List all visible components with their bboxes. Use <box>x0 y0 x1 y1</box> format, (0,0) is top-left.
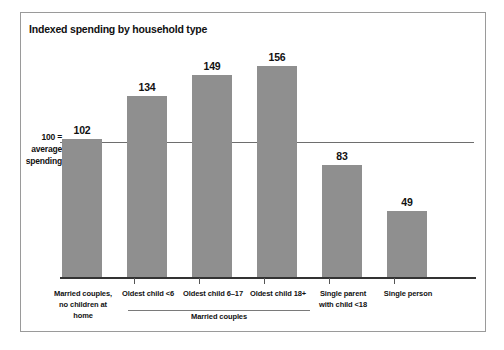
bar <box>192 75 232 278</box>
bar-value-label: 134 <box>127 81 167 93</box>
axis-note-line-1: 100 = <box>22 131 62 143</box>
group-bracket-rule <box>128 310 310 311</box>
category-label-line: Single person <box>377 288 439 299</box>
category-label: Single parent with child <18 <box>312 288 374 310</box>
category-label: Married couples, no children at home <box>52 288 114 321</box>
category-label-line: Oldest child <6 <box>117 288 179 299</box>
bar-value-label: 102 <box>62 124 102 136</box>
x-axis-baseline <box>60 277 476 279</box>
bar <box>127 96 167 278</box>
chart-figure: Indexed spending by household type 100 =… <box>0 0 504 350</box>
category-label-line: Oldest child 18+ <box>247 288 309 299</box>
category-label: Oldest child 18+ <box>247 288 309 299</box>
axis-tick <box>134 278 135 284</box>
category-label: Oldest child <6 <box>117 288 179 299</box>
bar <box>62 139 102 278</box>
chart-title: Indexed spending by household type <box>29 23 207 35</box>
axis-tick <box>264 278 265 284</box>
bar-value-label: 49 <box>387 196 427 208</box>
bar-value-label: 156 <box>257 51 297 63</box>
category-label: Single person <box>377 288 439 299</box>
reference-line-label: 100 = average spending <box>22 131 62 167</box>
category-label: Oldest child 6–17 <box>182 288 244 299</box>
bar <box>257 66 297 278</box>
category-label-line: Married couples, <box>52 288 114 299</box>
axis-tick <box>394 278 395 284</box>
plot-area: 102 134 149 156 83 49 <box>62 40 474 278</box>
category-label-line: Single parent <box>312 288 374 299</box>
axis-note-line-3: spending <box>22 155 62 167</box>
bar-value-label: 149 <box>192 60 232 72</box>
axis-tick <box>329 278 330 284</box>
bar <box>387 211 427 278</box>
bar <box>322 165 362 278</box>
axis-tick <box>199 278 200 284</box>
bar-value-label: 83 <box>322 150 362 162</box>
axis-note-line-2: average <box>22 143 62 155</box>
category-label-line: Oldest child 6–17 <box>182 288 244 299</box>
category-label-line: with child <18 <box>312 299 374 310</box>
category-label-line: no children at home <box>52 299 114 321</box>
group-bracket-label: Married couples <box>128 312 310 321</box>
